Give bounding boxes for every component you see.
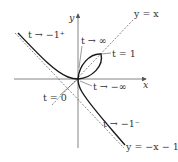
pointer-t-inf: [79, 46, 82, 68]
folium-diagram: y x y = x y = −x − 1 t → −1⁺ t → ∞ t = 1…: [0, 0, 178, 162]
diagram-canvas: y x y = x y = −x − 1 t → −1⁺ t → ∞ t = 1…: [0, 0, 178, 162]
y-axis-label: y: [68, 12, 75, 23]
label-t-1: t = 1: [112, 48, 136, 59]
x-axis-label: x: [143, 79, 149, 90]
curve-loop: [78, 54, 101, 79]
label-t-neg-inf: t → −∞: [93, 81, 127, 92]
pointer-t-1: [101, 53, 111, 54]
y-equals-x-label: y = x: [133, 8, 159, 19]
asymptote-label: y = −x − 1: [125, 141, 178, 152]
pointer-t-neg-inf: [80, 81, 92, 86]
label-t-0: t = 0: [43, 92, 67, 103]
label-t-neg1-plus: t → −1⁺: [28, 29, 65, 40]
label-t-neg1-minus: t → −1⁻: [103, 118, 140, 129]
label-t-inf: t → ∞: [81, 35, 107, 46]
